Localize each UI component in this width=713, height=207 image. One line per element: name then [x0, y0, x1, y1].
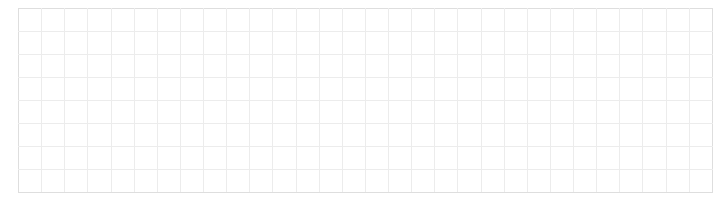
grid-cell[interactable] [643, 147, 666, 170]
grid-cell[interactable] [42, 170, 65, 193]
grid-cell[interactable] [550, 32, 573, 55]
grid-cell[interactable] [319, 55, 342, 78]
grid-cell[interactable] [227, 55, 250, 78]
grid-cell[interactable] [550, 9, 573, 32]
grid-cell[interactable] [227, 147, 250, 170]
grid-cell[interactable] [481, 78, 504, 101]
grid-cell[interactable] [481, 55, 504, 78]
grid-cell[interactable] [597, 78, 620, 101]
grid-cell[interactable] [643, 124, 666, 147]
grid-cell[interactable] [65, 124, 88, 147]
grid-cell[interactable] [365, 124, 388, 147]
grid-cell[interactable] [365, 55, 388, 78]
grid-cell[interactable] [19, 124, 42, 147]
grid-cell[interactable] [204, 101, 227, 124]
grid-cell[interactable] [574, 170, 597, 193]
grid-cell[interactable] [365, 78, 388, 101]
grid-cell[interactable] [319, 170, 342, 193]
grid-cell[interactable] [319, 9, 342, 32]
grid-cell[interactable] [88, 78, 111, 101]
grid-cell[interactable] [273, 9, 296, 32]
grid-cell[interactable] [666, 124, 689, 147]
grid-cell[interactable] [504, 124, 527, 147]
grid-cell[interactable] [435, 32, 458, 55]
grid-cell[interactable] [689, 55, 712, 78]
grid-cell[interactable] [180, 78, 203, 101]
grid-cell[interactable] [19, 170, 42, 193]
grid-cell[interactable] [65, 78, 88, 101]
grid-cell[interactable] [227, 9, 250, 32]
grid-cell[interactable] [666, 9, 689, 32]
grid-cell[interactable] [296, 78, 319, 101]
grid-cell[interactable] [527, 101, 550, 124]
grid-cell[interactable] [250, 55, 273, 78]
grid-cell[interactable] [365, 147, 388, 170]
grid-cell[interactable] [435, 170, 458, 193]
grid-cell[interactable] [597, 170, 620, 193]
grid-cell[interactable] [342, 170, 365, 193]
grid-cell[interactable] [481, 32, 504, 55]
grid-cell[interactable] [643, 55, 666, 78]
grid-cell[interactable] [319, 101, 342, 124]
grid-cell[interactable] [227, 124, 250, 147]
grid-cell[interactable] [204, 55, 227, 78]
grid-cell[interactable] [527, 78, 550, 101]
grid-cell[interactable] [227, 78, 250, 101]
grid-cell[interactable] [435, 9, 458, 32]
grid-cell[interactable] [319, 147, 342, 170]
grid-cell[interactable] [296, 170, 319, 193]
grid-cell[interactable] [342, 147, 365, 170]
grid-cell[interactable] [65, 55, 88, 78]
grid-cell[interactable] [689, 170, 712, 193]
grid-cell[interactable] [42, 124, 65, 147]
grid-cell[interactable] [342, 32, 365, 55]
grid-cell[interactable] [574, 32, 597, 55]
grid-cell[interactable] [19, 9, 42, 32]
grid-cell[interactable] [666, 32, 689, 55]
grid-cell[interactable] [458, 124, 481, 147]
grid-cell[interactable] [250, 124, 273, 147]
grid-cell[interactable] [88, 147, 111, 170]
grid-cell[interactable] [296, 32, 319, 55]
grid-cell[interactable] [389, 9, 412, 32]
grid-cell[interactable] [458, 9, 481, 32]
grid-cell[interactable] [296, 101, 319, 124]
grid-cell[interactable] [157, 170, 180, 193]
grid-cell[interactable] [111, 78, 134, 101]
grid-cell[interactable] [643, 101, 666, 124]
grid-cell[interactable] [88, 124, 111, 147]
grid-cell[interactable] [458, 101, 481, 124]
grid-cell[interactable] [134, 9, 157, 32]
grid-cell[interactable] [111, 170, 134, 193]
grid-cell[interactable] [342, 55, 365, 78]
grid-cell[interactable] [458, 147, 481, 170]
grid-cell[interactable] [597, 147, 620, 170]
grid-cell[interactable] [620, 32, 643, 55]
grid-cell[interactable] [157, 55, 180, 78]
grid-cell[interactable] [504, 101, 527, 124]
grid-cell[interactable] [134, 124, 157, 147]
grid-cell[interactable] [574, 9, 597, 32]
grid-cell[interactable] [597, 9, 620, 32]
grid-cell[interactable] [157, 78, 180, 101]
grid-cell[interactable] [111, 101, 134, 124]
grid-cell[interactable] [689, 147, 712, 170]
grid-cell[interactable] [550, 78, 573, 101]
grid-cell[interactable] [88, 55, 111, 78]
grid-cell[interactable] [435, 78, 458, 101]
grid-cell[interactable] [180, 101, 203, 124]
grid-cell[interactable] [689, 9, 712, 32]
grid-cell[interactable] [597, 32, 620, 55]
grid-cell[interactable] [527, 32, 550, 55]
grid-cell[interactable] [550, 101, 573, 124]
grid-cell[interactable] [412, 101, 435, 124]
grid-cell[interactable] [597, 55, 620, 78]
grid-cell[interactable] [65, 9, 88, 32]
grid-cell[interactable] [504, 78, 527, 101]
grid-cell[interactable] [342, 101, 365, 124]
grid-cell[interactable] [111, 147, 134, 170]
grid-cell[interactable] [550, 147, 573, 170]
grid-cell[interactable] [342, 9, 365, 32]
grid-cell[interactable] [250, 101, 273, 124]
grid-cell[interactable] [204, 9, 227, 32]
